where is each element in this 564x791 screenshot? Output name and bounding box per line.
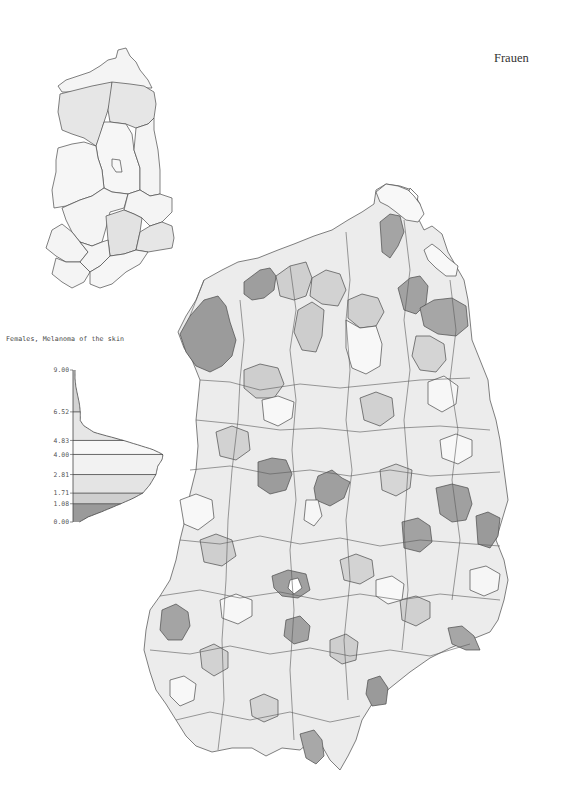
district-low xyxy=(346,320,382,374)
overview-map xyxy=(46,48,174,288)
overview-region xyxy=(108,82,156,128)
overview-region xyxy=(136,222,174,252)
main-map xyxy=(144,184,508,770)
legend-class-band xyxy=(73,440,163,454)
map-canvas: 9.006.524.834.002.811.711.080.00 xyxy=(0,0,564,791)
legend-tick-label: 1.08 xyxy=(54,500,70,508)
legend-class-band xyxy=(73,475,156,494)
legend-axis: 9.006.524.834.002.811.711.080.00 xyxy=(54,366,73,526)
legend-tick-label: 4.00 xyxy=(54,451,70,459)
legend-distribution-chart xyxy=(73,370,163,522)
legend-class-band xyxy=(73,454,163,474)
legend-tick-label: 9.00 xyxy=(54,366,70,374)
district-mid xyxy=(244,364,284,398)
legend-tick-label: 2.81 xyxy=(54,471,70,479)
legend-tick-label: 1.71 xyxy=(54,489,70,497)
legend-tick-label: 6.52 xyxy=(54,408,70,416)
legend-tick-label: 0.00 xyxy=(54,518,70,526)
legend-tick-label: 4.83 xyxy=(54,437,70,445)
